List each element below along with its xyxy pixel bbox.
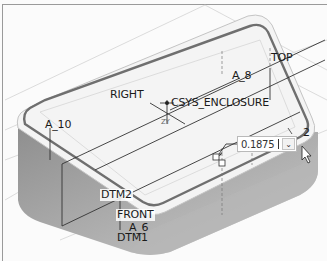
dimension-value-input[interactable]: 0.1875 ⌄	[237, 136, 297, 152]
datum-label-dtm2[interactable]: DTM2	[100, 189, 133, 201]
datum-label-top[interactable]: TOP	[271, 52, 292, 64]
datum-label-right[interactable]: RIGHT	[110, 89, 143, 101]
datum-label-front[interactable]: FRONT	[116, 209, 155, 221]
datum-label-dtm1[interactable]: DTM1	[117, 232, 148, 244]
dimension-marker: 2	[303, 127, 310, 139]
chevron-down-icon: ⌄	[285, 140, 292, 149]
csys-label[interactable]: CSYS_ENCLOSURE	[171, 97, 269, 109]
cad-graphics-viewport[interactable]: TOP A_8 RIGHT CSYS_ENCLOSURE ZY A_10 2 D…	[0, 0, 327, 261]
drag-handle-2[interactable]	[219, 160, 225, 166]
dimension-value: 0.1875	[238, 139, 274, 150]
text-caret	[278, 139, 279, 149]
csys-axis-hint: ZY	[161, 116, 170, 128]
axis-label-a10[interactable]: A_10	[45, 119, 71, 131]
axis-label-a8[interactable]: A_8	[232, 70, 251, 82]
dimension-dropdown-button[interactable]: ⌄	[282, 138, 295, 150]
drag-handle-1[interactable]	[213, 154, 219, 160]
